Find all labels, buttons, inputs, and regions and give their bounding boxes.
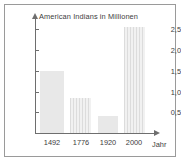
y-axis-arrow-icon [32,13,38,19]
x-axis-line [35,133,155,134]
chart-title: American Indians in Millionen [39,12,138,21]
y-tick-label-2-5: 2,5 [153,25,181,34]
y-tick-mark [35,50,39,51]
y-tick-mark [35,71,39,72]
y-tick-label-1-5: 1,5 [153,67,181,76]
y-tick-label-0-5: 0,5 [153,108,181,117]
y-tick-mark [35,92,39,93]
bar-1920[interactable] [98,116,118,133]
x-tick-label-2000: 2000 [118,138,150,147]
bar-1492[interactable] [40,71,64,133]
x-axis-arrow-icon [154,130,160,136]
plot-area: American Indians in Millionen 2,5 2,0 1,… [0,0,181,162]
y-tick-label-1-0: 1,0 [153,88,181,97]
chart-figure: American Indians in Millionen 2,5 2,0 1,… [0,0,181,162]
x-tick-label-1492: 1492 [36,138,68,147]
y-tick-mark [35,29,39,30]
y-axis-line [35,18,36,133]
bar-1776[interactable] [70,98,91,133]
y-tick-mark [35,112,39,113]
x-axis-title: Jahr [152,140,166,149]
y-tick-label-2-0: 2,0 [153,46,181,55]
bar-2000[interactable] [124,27,145,133]
